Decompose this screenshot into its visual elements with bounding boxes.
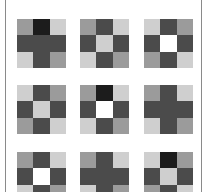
- tile-cell: [50, 52, 66, 68]
- tile-cell: [33, 152, 49, 168]
- tile-cell: [144, 35, 160, 51]
- tile-cell: [177, 118, 193, 134]
- pattern-tile-8: [80, 152, 129, 192]
- tile-cell: [177, 168, 193, 184]
- tile-cell: [80, 19, 96, 35]
- tile-cell: [17, 35, 33, 51]
- pattern-tile-1: [17, 19, 66, 68]
- tile-cell: [160, 168, 176, 184]
- tile-cell: [50, 19, 66, 35]
- tile-cell: [144, 118, 160, 134]
- pattern-tile-7: [17, 152, 66, 192]
- tile-cell: [17, 101, 33, 117]
- tile-cell: [33, 19, 49, 35]
- tile-cell: [177, 185, 193, 192]
- tile-cell: [144, 101, 160, 117]
- tile-cell: [33, 185, 49, 192]
- tile-cell: [80, 52, 96, 68]
- tile-cell: [33, 118, 49, 134]
- tile-cell: [17, 85, 33, 101]
- pattern-tile-3: [144, 19, 193, 68]
- tile-cell: [177, 52, 193, 68]
- tile-cell: [113, 101, 129, 117]
- tile-cell: [160, 19, 176, 35]
- tile-cell: [17, 168, 33, 184]
- tile-cell: [50, 35, 66, 51]
- tile-cell: [33, 85, 49, 101]
- tile-cell: [113, 85, 129, 101]
- tile-cell: [17, 118, 33, 134]
- tile-cell: [80, 185, 96, 192]
- tile-cell: [17, 19, 33, 35]
- tile-cell: [96, 52, 112, 68]
- tile-cell: [96, 168, 112, 184]
- pattern-tile-6: [144, 85, 193, 134]
- tile-cell: [144, 185, 160, 192]
- tile-cell: [160, 85, 176, 101]
- tile-cell: [160, 35, 176, 51]
- tile-cell: [177, 19, 193, 35]
- tile-cell: [80, 118, 96, 134]
- tile-cell: [160, 185, 176, 192]
- tile-cell: [96, 19, 112, 35]
- tile-cell: [113, 19, 129, 35]
- tile-cell: [50, 185, 66, 192]
- pattern-tile-4: [17, 85, 66, 134]
- tile-cell: [50, 168, 66, 184]
- tile-cell: [96, 152, 112, 168]
- tile-cell: [80, 35, 96, 51]
- pattern-tile-2: [80, 19, 129, 68]
- tile-cell: [177, 101, 193, 117]
- tile-cell: [17, 185, 33, 192]
- tile-cell: [144, 85, 160, 101]
- tile-cell: [113, 52, 129, 68]
- tile-cell: [144, 52, 160, 68]
- tile-cell: [50, 118, 66, 134]
- tile-cell: [50, 101, 66, 117]
- tile-cell: [160, 52, 176, 68]
- tile-cell: [96, 185, 112, 192]
- tile-cell: [113, 118, 129, 134]
- tile-cell: [17, 152, 33, 168]
- tile-cell: [113, 35, 129, 51]
- tile-cell: [80, 168, 96, 184]
- tile-cell: [50, 152, 66, 168]
- tile-cell: [80, 85, 96, 101]
- tile-cell: [160, 101, 176, 117]
- tile-cell: [80, 152, 96, 168]
- tile-cell: [96, 35, 112, 51]
- tile-cell: [33, 52, 49, 68]
- tile-cell: [144, 19, 160, 35]
- tile-cell: [96, 101, 112, 117]
- tile-cell: [113, 152, 129, 168]
- tile-cell: [50, 85, 66, 101]
- tile-cell: [33, 168, 49, 184]
- tile-cell: [113, 168, 129, 184]
- tile-cell: [160, 118, 176, 134]
- tile-cell: [33, 35, 49, 51]
- tile-cell: [96, 118, 112, 134]
- tile-cell: [177, 35, 193, 51]
- tile-cell: [96, 85, 112, 101]
- tile-cell: [33, 101, 49, 117]
- pattern-tile-9: [144, 152, 193, 192]
- tile-cell: [160, 152, 176, 168]
- tile-cell: [177, 152, 193, 168]
- tile-cell: [144, 168, 160, 184]
- pattern-tile-5: [80, 85, 129, 134]
- tile-cell: [80, 101, 96, 117]
- tile-cell: [177, 85, 193, 101]
- tile-cell: [144, 152, 160, 168]
- tile-cell: [17, 52, 33, 68]
- tile-cell: [113, 185, 129, 192]
